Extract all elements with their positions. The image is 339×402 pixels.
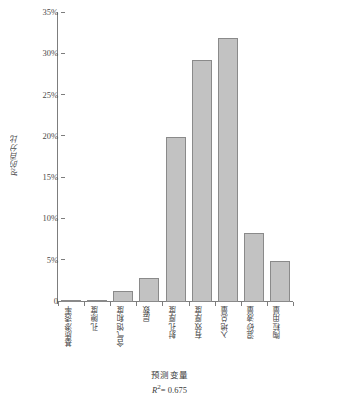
bar[interactable] xyxy=(87,300,107,302)
bar[interactable] xyxy=(113,291,133,302)
x-category-label: 入地总量 xyxy=(215,306,235,368)
x-tick-mark xyxy=(293,302,294,306)
x-axis-title: 预测变量 R2= 0.675 xyxy=(0,370,339,396)
y-tick-35%: 35% xyxy=(20,7,61,17)
y-axis-title: R²的百分比 xyxy=(2,108,26,204)
x-category-label-text: 入地总量 xyxy=(220,306,229,339)
y-tick-20%: 20% xyxy=(20,131,61,141)
x-category-label-text: 含气饱和度 xyxy=(116,306,125,347)
bar-slot xyxy=(192,13,212,302)
bar-slot xyxy=(87,13,107,302)
bar-slot xyxy=(270,13,290,302)
bar-slot xyxy=(139,13,159,302)
x-category-label: 基质渗透率 xyxy=(58,306,78,368)
x-axis-title-label: 预测变量 xyxy=(0,370,339,381)
bar[interactable] xyxy=(244,233,264,302)
x-category-label-text: 基质渗透率 xyxy=(64,306,73,347)
x-category-label-text: 有效厚度 xyxy=(194,306,203,339)
bar-slot xyxy=(113,13,133,302)
x-category-label-text: 孔隙度 xyxy=(90,306,99,331)
y-tick-0: 0 xyxy=(20,296,61,306)
x-category-label-text: 层数 xyxy=(142,306,151,322)
x-category-label: 射孔厚度 xyxy=(162,306,182,368)
bar-chart-figure: R²的百分比 05%10%15%20%25%30%35% 基质渗透率孔隙度含气饱… xyxy=(0,0,339,402)
bar[interactable] xyxy=(61,300,81,302)
bar-series xyxy=(58,12,293,302)
x-category-label-text: 射孔厚度 xyxy=(168,306,177,339)
y-axis-title-label: R²的百分比 xyxy=(9,135,20,176)
bar-slot xyxy=(166,13,186,302)
bar[interactable] xyxy=(192,60,212,302)
bar[interactable] xyxy=(218,38,238,302)
y-tick-15%: 15% xyxy=(20,172,61,182)
bar-slot xyxy=(244,13,264,302)
y-tick-10%: 10% xyxy=(20,213,61,223)
y-tick-25%: 25% xyxy=(20,90,61,100)
bar[interactable] xyxy=(166,137,186,302)
bar-slot xyxy=(61,13,81,302)
y-tick-5%: 5% xyxy=(20,255,61,265)
x-category-label: 陶粒用量 xyxy=(267,306,287,368)
y-tick-30%: 30% xyxy=(20,48,61,58)
x-category-label: 孔隙度 xyxy=(84,306,104,368)
x-axis-category-labels: 基质渗透率孔隙度含气饱和度层数射孔厚度有效厚度入地总量混砂液量陶粒用量 xyxy=(58,306,293,368)
x-category-label-text: 混砂液量 xyxy=(246,306,255,339)
x-category-label: 有效厚度 xyxy=(189,306,209,368)
bar[interactable] xyxy=(270,261,290,302)
bar[interactable] xyxy=(139,278,159,302)
r-squared-annotation: R2= 0.675 xyxy=(0,382,339,396)
x-category-label: 层数 xyxy=(136,306,156,368)
r-squared-value: = 0.675 xyxy=(161,385,187,395)
x-category-label: 混砂液量 xyxy=(241,306,261,368)
x-category-label-text: 陶粒用量 xyxy=(272,306,281,339)
x-category-label: 含气饱和度 xyxy=(110,306,130,368)
bar-slot xyxy=(218,13,238,302)
